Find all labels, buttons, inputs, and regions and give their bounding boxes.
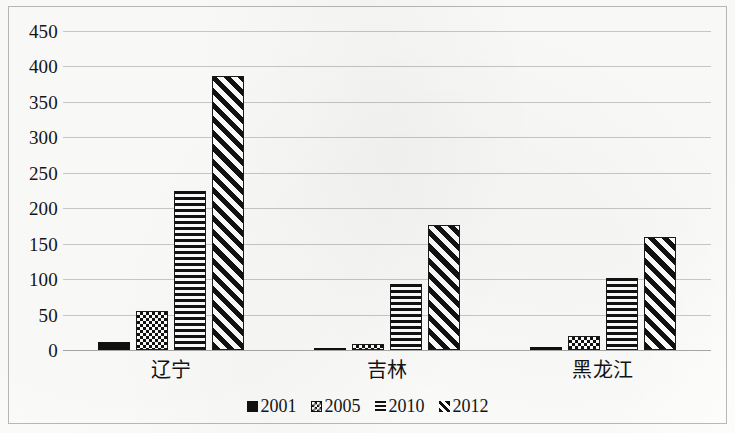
legend-label-2010: 2010 xyxy=(389,396,425,417)
y-axis-tick-150: 150 xyxy=(10,234,58,253)
bar-2001-2[interactable] xyxy=(530,347,562,350)
bar-2005-1[interactable] xyxy=(352,344,384,350)
y-axis-tick-350: 350 xyxy=(10,92,58,111)
chart-legend: 2001200520102012 xyxy=(0,396,735,417)
y-axis-tick-50: 50 xyxy=(10,305,58,324)
bar-group-3 xyxy=(495,31,711,350)
bar-2012-2[interactable] xyxy=(644,237,676,350)
y-axis-tick-300: 300 xyxy=(10,128,58,147)
gridline-0 xyxy=(63,350,711,351)
bar-2010-2[interactable] xyxy=(606,278,638,350)
hlines-square-icon xyxy=(375,401,386,412)
x-axis-label-liaoning: 辽宁 xyxy=(63,354,279,388)
legend-label-2005: 2005 xyxy=(325,396,361,417)
x-axis-categories: 辽宁 吉林 黑龙江 xyxy=(63,354,711,388)
bar-2010-1[interactable] xyxy=(390,284,422,350)
y-axis-tick-450: 450 xyxy=(10,22,58,41)
bar-2001-0[interactable] xyxy=(98,342,130,350)
bar-2005-0[interactable] xyxy=(136,311,168,350)
legend-label-2012: 2012 xyxy=(453,396,489,417)
bar-2001-1[interactable] xyxy=(314,348,346,350)
bar-group-1 xyxy=(63,31,279,350)
bar-2005-2[interactable] xyxy=(568,336,600,350)
x-axis-label-heilongjiang: 黑龙江 xyxy=(495,354,711,388)
legend-item-2005[interactable]: 2005 xyxy=(311,396,361,417)
bar-2010-0[interactable] xyxy=(174,191,206,351)
y-axis-tick-100: 100 xyxy=(10,270,58,289)
checker-square-icon xyxy=(311,401,322,412)
x-axis-label-jilin: 吉林 xyxy=(279,354,495,388)
bar-group-2 xyxy=(279,31,495,350)
legend-item-2012[interactable]: 2012 xyxy=(439,396,489,417)
y-axis-tick-200: 200 xyxy=(10,199,58,218)
bar-2012-1[interactable] xyxy=(428,225,460,350)
y-axis: 450400350300250200150100500 xyxy=(0,31,58,350)
y-axis-tick-250: 250 xyxy=(10,163,58,182)
legend-item-2001[interactable]: 2001 xyxy=(247,396,297,417)
bar-groups xyxy=(63,31,711,350)
bar-2012-0[interactable] xyxy=(212,76,244,350)
bar-chart: 450400350300250200150100500 辽宁 吉林 黑龙江 20… xyxy=(0,0,735,433)
solid-square-icon xyxy=(247,401,258,412)
legend-item-2010[interactable]: 2010 xyxy=(375,396,425,417)
legend-label-2001: 2001 xyxy=(261,396,297,417)
diagonal-square-icon xyxy=(439,401,450,412)
y-axis-tick-400: 400 xyxy=(10,57,58,76)
y-axis-tick-0: 0 xyxy=(10,341,58,360)
